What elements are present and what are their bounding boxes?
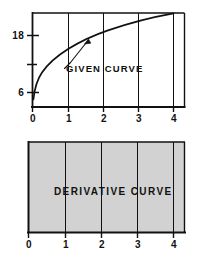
upper-xtick-label-1: 1 [62,113,76,124]
upper-xtick-label-2: 2 [97,113,111,124]
lower-xtick-label-0: 0 [22,239,36,250]
figure-container: 18 6 0 1 2 3 4 GIVEN CURVE DERIVATIVE CU… [0,0,202,259]
derivative-curve-annotation: DERIVATIVE CURVE [54,186,173,197]
upper-chart-group [27,12,186,112]
lower-xtick-label-2: 2 [95,239,109,250]
figure-vector-layer [0,0,202,259]
upper-ytick-label-6: 6 [4,87,24,98]
upper-ytick-label-18: 18 [4,30,24,41]
lower-xtick-label-4: 4 [167,239,181,250]
upper-xtick-label-0: 0 [26,113,40,124]
lower-xtick-label-1: 1 [59,239,73,250]
upper-xtick-label-4: 4 [167,113,181,124]
upper-xtick-label-3: 3 [132,113,146,124]
lower-xtick-label-3: 3 [131,239,145,250]
given-curve-annotation: GIVEN CURVE [66,63,143,74]
